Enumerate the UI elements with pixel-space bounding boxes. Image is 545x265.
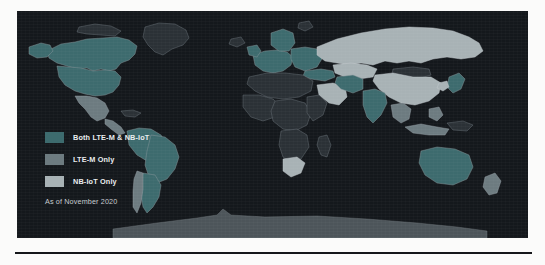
- legend-swatch-nb-iot: [45, 176, 64, 187]
- region-scandinavia: [271, 29, 295, 51]
- horizontal-rule: [15, 252, 532, 254]
- legend-item-lte-m: LTE-M Only: [45, 151, 149, 167]
- legend-swatch-lte-m: [45, 154, 64, 165]
- map-panel: .ocean { fill: #14181c; } .land { fill: …: [17, 11, 528, 238]
- legend-swatch-both: [45, 132, 64, 143]
- legend-label-lte-m: LTE-M Only: [73, 154, 115, 165]
- legend-label-both: Both LTE-M & NB-IoT: [73, 132, 149, 143]
- legend-label-nb-iot: NB-IoT Only: [73, 176, 117, 187]
- coverage-map-figure: .ocean { fill: #14181c; } .land { fill: …: [0, 0, 545, 265]
- legend-as-of-note: As of November 2020: [45, 197, 149, 206]
- legend-item-both: Both LTE-M & NB-IoT: [45, 129, 149, 145]
- map-legend: Both LTE-M & NB-IoT LTE-M Only NB-IoT On…: [45, 129, 149, 206]
- legend-item-nb-iot: NB-IoT Only: [45, 173, 149, 189]
